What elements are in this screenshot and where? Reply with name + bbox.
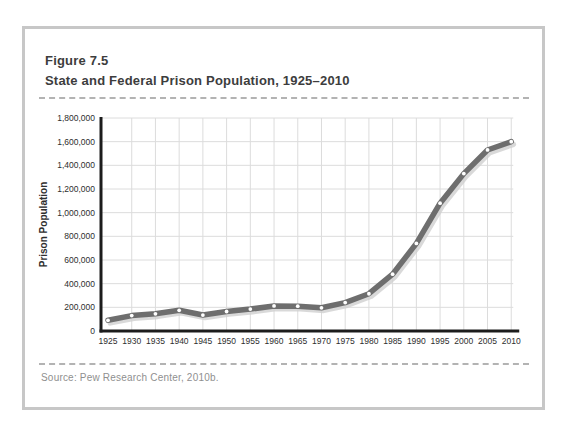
data-point-marker — [462, 172, 466, 176]
data-point-marker — [391, 272, 395, 276]
data-point-marker — [201, 313, 205, 317]
x-tick-label: 2005 — [478, 336, 497, 346]
y-tick-label: 400,000 — [64, 279, 95, 289]
x-tick-label: 1990 — [407, 336, 426, 346]
x-tick-label: 1970 — [312, 336, 331, 346]
data-point-marker — [343, 301, 347, 305]
data-point-marker — [154, 312, 158, 316]
x-tick-label: 1925 — [99, 336, 118, 346]
data-point-marker — [272, 304, 276, 308]
data-point-marker — [414, 242, 418, 246]
x-tick-label: 1965 — [288, 336, 307, 346]
figure-title-block: Figure 7.5 State and Federal Prison Popu… — [45, 51, 350, 91]
data-point-marker — [320, 306, 324, 310]
figure-panel: Figure 7.5 State and Federal Prison Popu… — [22, 26, 545, 410]
data-point-marker — [438, 201, 442, 205]
y-tick-label: 1,400,000 — [57, 160, 95, 170]
data-point-marker — [486, 148, 490, 152]
figure-label: Figure 7.5 — [45, 51, 350, 71]
source-text: Source: Pew Research Center, 2010b. — [41, 372, 219, 383]
x-tick-label: 1940 — [170, 336, 189, 346]
divider-bottom — [39, 363, 529, 365]
x-tick-label: 1950 — [217, 336, 236, 346]
figure-title: State and Federal Prison Population, 192… — [45, 71, 350, 91]
x-tick-label: 2010 — [502, 336, 521, 346]
x-tick-label: 1930 — [122, 336, 141, 346]
data-point-marker — [296, 304, 300, 308]
y-tick-label: 800,000 — [64, 231, 95, 241]
y-tick-label: 600,000 — [64, 255, 95, 265]
x-tick-label: 1980 — [359, 336, 378, 346]
y-tick-label: 200,000 — [64, 302, 95, 312]
page: { "figure": { "label": "Figure 7.5", "ti… — [0, 0, 575, 431]
x-tick-label: 1955 — [241, 336, 260, 346]
x-tick-label: 1960 — [265, 336, 284, 346]
data-point-marker — [367, 292, 371, 296]
data-point-marker — [130, 314, 134, 318]
y-tick-label: 0 — [90, 326, 95, 336]
x-tick-label: 1975 — [336, 336, 355, 346]
y-tick-label: 1,200,000 — [57, 184, 95, 194]
x-tick-label: 1945 — [193, 336, 212, 346]
data-point-marker — [509, 140, 513, 144]
y-tick-label: 1,000,000 — [57, 208, 95, 218]
x-tick-label: 1985 — [383, 336, 402, 346]
chart: 0200,000400,000600,000800,0001,000,0001,… — [31, 109, 536, 354]
data-point-marker — [177, 308, 181, 312]
divider-top — [39, 97, 529, 99]
y-tick-label: 1,600,000 — [57, 137, 95, 147]
y-tick-label: 1,800,000 — [57, 113, 95, 123]
data-point-marker — [248, 307, 252, 311]
x-tick-label: 2000 — [454, 336, 473, 346]
x-tick-label: 1935 — [146, 336, 165, 346]
data-line-shadow — [110, 144, 513, 323]
x-tick-label: 1995 — [431, 336, 450, 346]
chart-svg: 0200,000400,000600,000800,0001,000,0001,… — [31, 109, 536, 354]
data-line — [108, 142, 511, 321]
y-axis-title: Prison Population — [38, 182, 49, 268]
data-point-marker — [106, 318, 110, 322]
data-point-marker — [225, 310, 229, 314]
